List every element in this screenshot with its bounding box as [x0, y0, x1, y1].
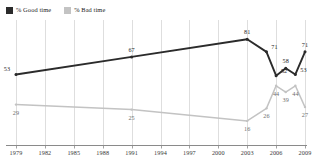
legend-label-bad-time: % Bad time: [74, 7, 105, 13]
x-tick-label-2003: 2003: [241, 150, 254, 156]
data-label-bad-2005: 26: [263, 113, 269, 119]
data-point-bad-2008[interactable]: [294, 85, 296, 87]
x-tick-label-1982: 1982: [39, 150, 52, 156]
data-point-bad-2007[interactable]: [285, 91, 287, 93]
data-label-bad-2007: 39: [282, 97, 288, 103]
data-label-good-2007: 58: [282, 58, 288, 64]
data-label-good-2005: 71: [271, 44, 277, 50]
data-label-good-2009: 71: [302, 42, 308, 48]
x-axis: 1979198219851988199119941997200020032006…: [0, 145, 313, 165]
x-tick-label-1997: 1997: [183, 150, 196, 156]
data-label-bad-2008: 44: [292, 91, 298, 97]
legend-item-bad-time: % Bad time: [64, 7, 105, 14]
x-tick-label-1979: 1979: [10, 150, 23, 156]
data-label-bad-1991: 25: [128, 114, 134, 120]
data-label-bad-1979: 29: [13, 109, 19, 115]
data-point-good-1979[interactable]: [15, 73, 18, 76]
chart-container: % Good time % Bad time 53678171525853712…: [0, 0, 313, 165]
x-tick-label-2009: 2009: [299, 150, 312, 156]
data-point-good-2003[interactable]: [246, 38, 249, 41]
x-tick-label-1988: 1988: [96, 150, 109, 156]
data-label-good-2003: 81: [244, 29, 250, 35]
x-tick-label-2006: 2006: [270, 150, 283, 156]
plot-svg: [0, 20, 313, 145]
x-tick-label-2000: 2000: [212, 150, 225, 156]
x-tick-label-1991: 1991: [125, 150, 138, 156]
legend-item-good-time: % Good time: [6, 7, 51, 14]
data-label-bad-2003: 16: [244, 126, 250, 132]
data-point-good-1991[interactable]: [130, 55, 133, 58]
data-label-bad-2009: 27: [302, 112, 308, 118]
legend-swatch-good-time: [6, 7, 13, 14]
data-point-bad-2006[interactable]: [275, 85, 277, 87]
data-label-good-2008: 53: [300, 66, 306, 72]
data-label-good-1979: 53: [4, 65, 10, 71]
data-point-good-2009[interactable]: [304, 50, 307, 53]
series-line-good-time: [16, 39, 305, 75]
data-point-bad-2009[interactable]: [304, 106, 306, 108]
data-point-bad-2005[interactable]: [265, 107, 267, 109]
chart-legend: % Good time % Bad time: [6, 4, 105, 16]
data-point-good-2008[interactable]: [294, 73, 297, 76]
x-tick-label-1985: 1985: [67, 150, 80, 156]
data-label-good-2006: 52: [281, 68, 287, 74]
plot-area: 53678171525853712925162644394427: [0, 20, 313, 145]
legend-swatch-bad-time: [64, 7, 71, 14]
data-point-bad-1991[interactable]: [130, 108, 132, 110]
data-label-good-1991: 67: [128, 47, 134, 53]
series-line-bad-time: [16, 86, 305, 121]
data-point-good-2005[interactable]: [265, 50, 268, 53]
x-tick-label-1994: 1994: [154, 150, 167, 156]
data-label-bad-2006: 44: [273, 91, 279, 97]
data-point-good-2006[interactable]: [275, 74, 278, 77]
legend-label-good-time: % Good time: [16, 7, 51, 13]
data-point-bad-2003[interactable]: [246, 120, 248, 122]
data-point-bad-1979[interactable]: [15, 103, 17, 105]
